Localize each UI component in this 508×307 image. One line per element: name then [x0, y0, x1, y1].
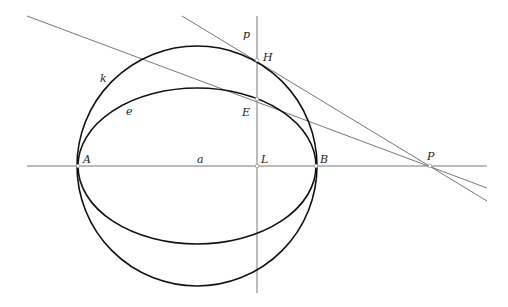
point-E: [255, 97, 259, 101]
label-k: k: [100, 72, 107, 85]
label-A: A: [82, 153, 91, 166]
geometry-diagram: k e p H E A a L B P: [0, 0, 508, 307]
point-P: [428, 164, 432, 168]
point-A: [76, 164, 80, 168]
label-H: H: [262, 51, 273, 64]
label-P: P: [426, 150, 435, 163]
point-H: [255, 58, 259, 62]
label-p: p: [243, 28, 250, 41]
label-L: L: [260, 153, 268, 166]
point-L: [255, 164, 259, 168]
label-e: e: [126, 105, 133, 118]
tangent-to-circle-line: [182, 16, 487, 201]
label-E: E: [241, 106, 250, 119]
label-B: B: [319, 153, 328, 166]
label-a: a: [197, 153, 204, 166]
point-B: [314, 164, 318, 168]
